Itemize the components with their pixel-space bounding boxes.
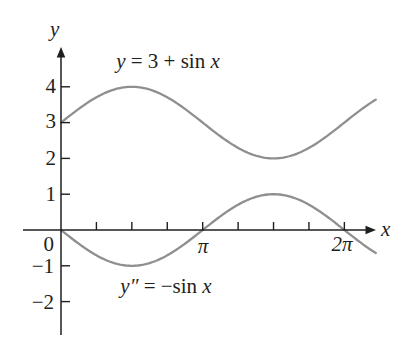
curve-y-equals-3-plus-sinx <box>61 87 376 159</box>
x-axis-label: x <box>381 217 401 241</box>
figure-sine-curves: y x 4 3 2 1 0 −1 −2 π 2π y = 3 + sin x y… <box>0 0 416 360</box>
x-tick-label-2pi: 2π <box>324 232 360 256</box>
equation-upper-mid: = 3 + sin <box>126 49 211 73</box>
equation-upper-arg: x <box>210 49 219 73</box>
y-tick-label-1: 1 <box>22 182 56 206</box>
equation-upper-lhs: y <box>116 49 125 73</box>
equation-lower-arg: x <box>202 274 211 298</box>
x-ticks <box>96 222 344 230</box>
y-tick-label-neg2: −2 <box>10 290 54 314</box>
origin-label: 0 <box>20 232 54 256</box>
y-axis <box>57 47 66 335</box>
y-tick-label-4: 4 <box>22 74 56 98</box>
y-tick-label-2: 2 <box>22 146 56 170</box>
y-axis-label: y <box>50 17 70 41</box>
y-tick-label-3: 3 <box>22 109 56 133</box>
equation-label-upper: y = 3 + sin x <box>98 49 238 73</box>
equation-lower-mid: = −sin <box>138 274 202 298</box>
equation-lower-lhs: y″ <box>120 274 138 298</box>
y-tick-label-neg1: −1 <box>10 254 54 278</box>
x-tick-label-pi: π <box>188 234 218 258</box>
equation-label-lower: y″ = −sin x <box>96 274 236 298</box>
